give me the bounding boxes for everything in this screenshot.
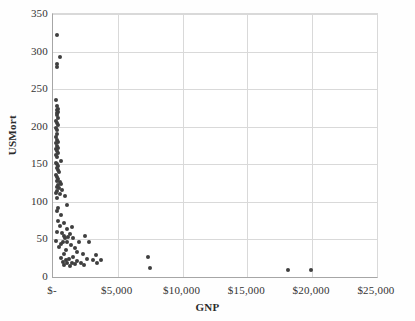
- gridline-horizontal: [53, 202, 377, 203]
- data-point: [94, 253, 98, 257]
- data-point: [95, 261, 99, 265]
- gridline-horizontal: [53, 14, 377, 15]
- data-point: [58, 55, 62, 59]
- data-point: [82, 263, 86, 267]
- data-point: [55, 230, 59, 234]
- x-axis-title: GNP: [0, 301, 415, 313]
- data-point: [62, 221, 66, 225]
- data-point: [55, 196, 59, 200]
- data-point: [56, 219, 60, 223]
- data-point: [73, 262, 77, 266]
- x-axis-tick-label: $-: [47, 285, 57, 296]
- data-point: [59, 159, 63, 163]
- data-point: [99, 258, 103, 262]
- y-axis-tick-label: 300: [2, 46, 48, 57]
- data-point: [55, 33, 59, 37]
- gridline-horizontal: [53, 89, 377, 90]
- data-point: [68, 264, 72, 268]
- data-point: [55, 65, 59, 69]
- x-axis-tick-label: $25,000: [357, 285, 394, 296]
- gridline-horizontal: [53, 164, 377, 165]
- data-point: [59, 213, 63, 217]
- y-axis-tick-labels: 050100150200250300350: [0, 0, 48, 321]
- data-point: [70, 225, 74, 229]
- gridline-horizontal: [53, 52, 377, 53]
- data-point: [75, 250, 79, 254]
- gridline-vertical: [377, 14, 378, 277]
- data-point: [148, 266, 152, 270]
- data-point: [65, 203, 69, 207]
- data-point: [91, 258, 95, 262]
- y-axis-tick-label: 0: [2, 271, 48, 282]
- data-point: [65, 227, 69, 231]
- x-axis-tick-label: $5,000: [101, 285, 132, 296]
- gridline-vertical: [183, 14, 184, 277]
- data-point: [57, 245, 61, 249]
- data-point: [58, 224, 62, 228]
- data-point: [63, 194, 67, 198]
- data-point: [60, 188, 64, 192]
- data-point: [54, 239, 58, 243]
- data-point: [81, 252, 85, 256]
- data-point: [83, 234, 87, 238]
- x-axis-tick-labels: $-$5,000$10,000$15,000$20,000$25,000: [0, 285, 415, 301]
- scatter-chart: 050100150200250300350 USMort $-$5,000$10…: [0, 0, 415, 321]
- gridline-horizontal: [53, 239, 377, 240]
- y-axis-tick-label: 100: [2, 196, 48, 207]
- data-point: [58, 192, 62, 196]
- gridline-vertical: [118, 14, 119, 277]
- data-point: [55, 209, 59, 213]
- gridline-horizontal: [53, 127, 377, 128]
- data-point: [146, 255, 150, 259]
- data-point: [77, 240, 81, 244]
- data-point: [62, 263, 66, 267]
- data-point: [62, 252, 66, 256]
- data-point: [54, 98, 58, 102]
- y-axis-tick-label: 50: [2, 233, 48, 244]
- y-axis-tick-label: 150: [2, 158, 48, 169]
- y-axis-title-text: USMort: [6, 115, 18, 155]
- gridline-vertical: [247, 14, 248, 277]
- x-axis-tick-label: $15,000: [228, 285, 265, 296]
- plot-area: [52, 13, 378, 278]
- data-point: [71, 255, 75, 259]
- data-point: [55, 155, 59, 159]
- data-point: [87, 240, 91, 244]
- x-axis-tick-label: $10,000: [163, 285, 200, 296]
- data-point: [85, 257, 89, 261]
- data-point: [286, 268, 290, 272]
- y-axis-tick-label: 350: [2, 8, 48, 19]
- y-axis-title: USMort: [6, 75, 18, 115]
- data-point: [69, 243, 73, 247]
- gridline-vertical: [312, 14, 313, 277]
- x-axis-tick-label: $20,000: [293, 285, 330, 296]
